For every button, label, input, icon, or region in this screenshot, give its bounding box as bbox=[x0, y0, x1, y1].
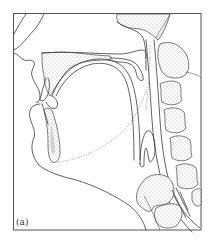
vertebra-c2 bbox=[158, 42, 189, 78]
neck-posterior-line bbox=[186, 72, 201, 78]
upper-lip bbox=[14, 53, 40, 103]
vertebra-c4 bbox=[164, 108, 186, 133]
sagittal-section-drawing bbox=[0, 0, 214, 247]
tongue-dorsum-inner bbox=[56, 63, 134, 160]
cricoid-cartilage bbox=[155, 204, 183, 228]
figure-label: (a) bbox=[16, 217, 28, 227]
upper-gum bbox=[46, 96, 58, 109]
anatomical-diagram: (a) bbox=[0, 0, 214, 247]
epiglottis bbox=[140, 131, 155, 167]
tongue-dorsum-outer bbox=[52, 59, 140, 160]
vertebra-c3 bbox=[160, 81, 182, 105]
vertebra-c5 bbox=[170, 136, 192, 161]
nasal-cavity-line bbox=[14, 14, 44, 50]
vertebra-c7 bbox=[192, 189, 201, 206]
skull-base bbox=[117, 14, 170, 40]
nasal-bone-line bbox=[14, 14, 26, 34]
vertebra-c6 bbox=[176, 164, 198, 189]
